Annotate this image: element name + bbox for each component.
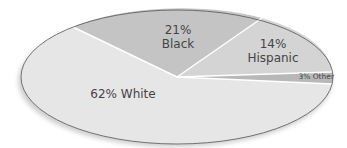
label-hispanic: 14% Hispanic: [243, 38, 303, 66]
label-hispanic-name: Hispanic: [243, 52, 303, 66]
label-black: 21% Black: [148, 24, 208, 52]
label-other: 3% Other: [290, 73, 334, 82]
label-black-pct: 21%: [148, 24, 208, 38]
label-white: 62% White: [78, 88, 168, 102]
label-hispanic-pct: 14%: [243, 38, 303, 52]
label-black-name: Black: [148, 38, 208, 52]
